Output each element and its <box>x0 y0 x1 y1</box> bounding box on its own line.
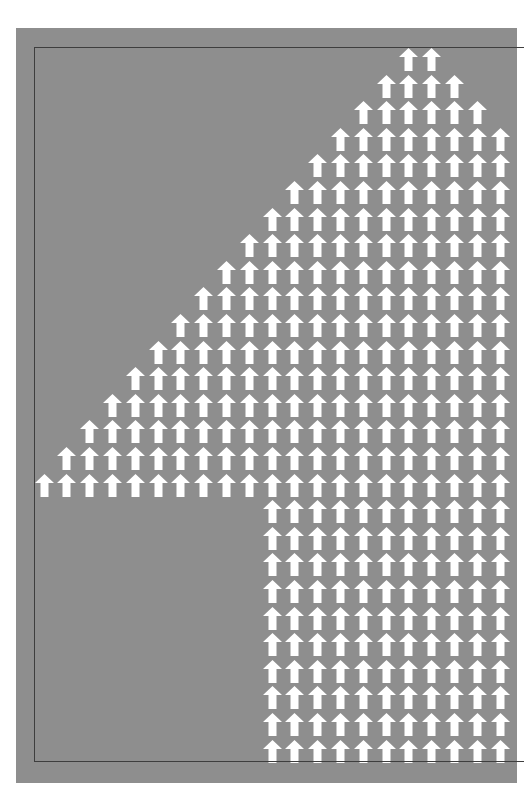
up-arrow-icon <box>445 128 464 151</box>
up-arrow-icon <box>240 367 259 390</box>
up-arrow-icon <box>422 607 441 630</box>
up-arrow-icon <box>377 740 396 763</box>
up-arrow-icon <box>354 686 373 709</box>
up-arrow-icon <box>491 686 510 709</box>
up-arrow-icon <box>149 420 168 443</box>
up-arrow-icon <box>491 500 510 523</box>
up-arrow-icon <box>285 660 304 683</box>
up-arrow-icon <box>468 686 487 709</box>
up-arrow-icon <box>354 580 373 603</box>
poster-panel <box>16 28 517 783</box>
up-arrow-icon <box>377 367 396 390</box>
up-arrow-icon <box>354 607 373 630</box>
up-arrow-icon <box>377 420 396 443</box>
up-arrow-icon <box>308 686 327 709</box>
up-arrow-icon <box>422 48 441 71</box>
up-arrow-icon <box>399 48 418 71</box>
up-arrow-icon <box>80 474 99 497</box>
up-arrow-icon <box>194 447 213 470</box>
up-arrow-icon <box>445 234 464 257</box>
up-arrow-icon <box>422 580 441 603</box>
up-arrow-icon <box>285 394 304 417</box>
up-arrow-icon <box>399 101 418 124</box>
up-arrow-icon <box>331 686 350 709</box>
up-arrow-icon <box>171 394 190 417</box>
up-arrow-icon <box>217 474 236 497</box>
up-arrow-icon <box>285 287 304 310</box>
up-arrow-icon <box>445 686 464 709</box>
up-arrow-icon <box>285 314 304 337</box>
up-arrow-icon <box>491 128 510 151</box>
up-arrow-icon <box>445 553 464 576</box>
up-arrow-icon <box>354 394 373 417</box>
up-arrow-icon <box>354 713 373 736</box>
up-arrow-icon <box>445 500 464 523</box>
up-arrow-icon <box>468 287 487 310</box>
up-arrow-icon <box>377 261 396 284</box>
up-arrow-icon <box>354 447 373 470</box>
up-arrow-icon <box>354 633 373 656</box>
up-arrow-icon <box>422 128 441 151</box>
up-arrow-icon <box>468 740 487 763</box>
up-arrow-icon <box>491 287 510 310</box>
up-arrow-icon <box>354 261 373 284</box>
up-arrow-icon <box>240 341 259 364</box>
up-arrow-icon <box>399 713 418 736</box>
up-arrow-icon <box>491 208 510 231</box>
up-arrow-icon <box>422 101 441 124</box>
up-arrow-icon <box>331 261 350 284</box>
up-arrow-icon <box>354 420 373 443</box>
up-arrow-icon <box>331 208 350 231</box>
up-arrow-icon <box>217 314 236 337</box>
up-arrow-icon <box>308 500 327 523</box>
up-arrow-icon <box>171 341 190 364</box>
up-arrow-icon <box>445 367 464 390</box>
up-arrow-icon <box>240 394 259 417</box>
up-arrow-icon <box>308 420 327 443</box>
up-arrow-icon <box>399 394 418 417</box>
up-arrow-icon <box>491 181 510 204</box>
up-arrow-icon <box>263 474 282 497</box>
up-arrow-icon <box>399 500 418 523</box>
up-arrow-icon <box>422 287 441 310</box>
up-arrow-icon <box>331 234 350 257</box>
up-arrow-icon <box>445 474 464 497</box>
up-arrow-icon <box>354 527 373 550</box>
up-arrow-icon <box>445 154 464 177</box>
up-arrow-icon <box>126 394 145 417</box>
up-arrow-icon <box>194 287 213 310</box>
up-arrow-icon <box>285 500 304 523</box>
up-arrow-icon <box>377 75 396 98</box>
up-arrow-icon <box>308 713 327 736</box>
up-arrow-icon <box>263 420 282 443</box>
up-arrow-icon <box>285 607 304 630</box>
up-arrow-icon <box>194 394 213 417</box>
up-arrow-icon <box>308 181 327 204</box>
up-arrow-icon <box>399 660 418 683</box>
up-arrow-icon <box>126 420 145 443</box>
up-arrow-icon <box>263 740 282 763</box>
up-arrow-icon <box>240 287 259 310</box>
up-arrow-icon <box>263 713 282 736</box>
up-arrow-icon <box>399 367 418 390</box>
up-arrow-icon <box>263 633 282 656</box>
up-arrow-icon <box>285 420 304 443</box>
up-arrow-icon <box>377 580 396 603</box>
up-arrow-icon <box>285 686 304 709</box>
up-arrow-icon <box>285 261 304 284</box>
up-arrow-icon <box>171 474 190 497</box>
up-arrow-icon <box>126 447 145 470</box>
up-arrow-icon <box>422 394 441 417</box>
up-arrow-icon <box>285 181 304 204</box>
up-arrow-icon <box>445 420 464 443</box>
up-arrow-icon <box>308 607 327 630</box>
up-arrow-icon <box>331 740 350 763</box>
up-arrow-icon <box>399 633 418 656</box>
up-arrow-icon <box>399 208 418 231</box>
up-arrow-icon <box>331 553 350 576</box>
up-arrow-icon <box>491 660 510 683</box>
up-arrow-icon <box>445 660 464 683</box>
up-arrow-icon <box>354 500 373 523</box>
up-arrow-icon <box>399 287 418 310</box>
up-arrow-icon <box>468 527 487 550</box>
